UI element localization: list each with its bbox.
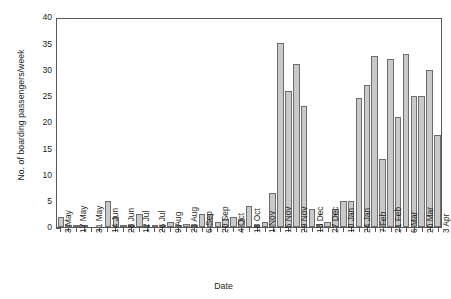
bar: [411, 96, 418, 227]
x-label-slot: 27 Dec: [324, 233, 332, 281]
x-label-slot: 12 Jul: [135, 233, 143, 281]
x-label-slot: [221, 233, 229, 281]
x-tick-mark: [170, 228, 171, 232]
bar-slot: [324, 19, 332, 227]
y-tick-label: 25: [28, 92, 52, 101]
x-label-slot: 31 May: [88, 233, 96, 281]
x-label-slot: 6 Sep: [198, 233, 206, 281]
x-label-slot: 29 Nov: [292, 233, 300, 281]
x-label-slot: [206, 233, 214, 281]
x-label-slot: 3 May: [56, 233, 64, 281]
x-label-slot: [363, 233, 371, 281]
plot-area: [56, 18, 442, 228]
x-tick-mark: [154, 228, 155, 232]
bar-slot: [386, 19, 394, 227]
bar-slot: [214, 19, 222, 227]
x-label-slot: [284, 233, 292, 281]
bar-slot: [418, 19, 426, 227]
x-tick-label: 29 Nov: [300, 206, 309, 233]
x-tick-mark: [91, 228, 92, 232]
y-tick-label: 0: [28, 223, 52, 232]
x-label-slot: [426, 233, 434, 281]
bar-slot: [135, 19, 143, 227]
bar: [371, 56, 378, 227]
x-label-slot: 23 Aug: [182, 233, 190, 281]
x-label-slot: 24 Jan: [355, 233, 363, 281]
x-tick-mark: [60, 228, 61, 232]
x-tick-mark: [249, 228, 250, 232]
x-tick-mark: [139, 228, 140, 232]
bar-slot: [96, 19, 104, 227]
bar-slot: [300, 19, 308, 227]
x-label-slot: [332, 233, 340, 281]
x-tick-label: 6 Mar: [410, 212, 419, 233]
x-tick-label: 18 Oct: [253, 208, 262, 233]
x-tick-label: 12 Jul: [142, 211, 151, 233]
y-tick-label: 40: [28, 13, 52, 22]
bar-slot: [371, 19, 379, 227]
bar-slot: [167, 19, 175, 227]
bar-series: [57, 19, 441, 227]
bar: [293, 64, 300, 227]
x-label-slot: [95, 233, 103, 281]
x-label-slot: [300, 233, 308, 281]
x-tick-mark: [406, 228, 407, 232]
bar-slot: [237, 19, 245, 227]
x-label-slot: [347, 233, 355, 281]
x-tick-label: 6 Sep: [205, 211, 214, 233]
x-tick-mark: [296, 228, 297, 232]
x-label-slot: 9 Aug: [166, 233, 174, 281]
x-tick-mark: [438, 228, 439, 232]
bar: [364, 85, 371, 227]
bar-slot: [284, 19, 292, 227]
x-tick-label: 24 Jan: [363, 208, 372, 233]
x-label-slot: 6 Mar: [403, 233, 411, 281]
bar: [434, 135, 441, 227]
x-tick-label: 27 Dec: [331, 206, 340, 233]
y-tick-label: 35: [28, 40, 52, 49]
x-label-slot: 13 Dec: [308, 233, 316, 281]
x-tick-label: 23 Aug: [190, 207, 199, 233]
bar-slot: [198, 19, 206, 227]
x-tick-label: 3 Apr: [442, 213, 451, 233]
x-tick-mark: [217, 228, 218, 232]
bar-slot: [183, 19, 191, 227]
x-label-slot: 4 Oct: [229, 233, 237, 281]
bar: [387, 59, 394, 227]
x-tick-mark: [123, 228, 124, 232]
x-label-slot: 17 May: [72, 233, 80, 281]
bar-slot: [230, 19, 238, 227]
x-label-slot: 10 Jan: [340, 233, 348, 281]
bar-slot: [379, 19, 387, 227]
x-tick-mark: [391, 228, 392, 232]
bar-slot: [394, 19, 402, 227]
x-tick-mark: [375, 228, 376, 232]
bar-slot: [222, 19, 230, 227]
x-tick-label: 4 Oct: [237, 213, 246, 233]
x-tick-mark: [359, 228, 360, 232]
x-label-slot: 3 Apr: [434, 233, 442, 281]
x-label-slot: 28 Jun: [119, 233, 127, 281]
x-tick-mark: [107, 228, 108, 232]
bar-slot: [292, 19, 300, 227]
x-tick-label: 13 Dec: [316, 206, 325, 233]
bar-slot: [206, 19, 214, 227]
x-label-slot: 26 Jul: [151, 233, 159, 281]
bar-slot: [363, 19, 371, 227]
bar-slot: [81, 19, 89, 227]
bar-slot: [332, 19, 340, 227]
x-label-slot: [127, 233, 135, 281]
bar: [426, 70, 433, 228]
x-label-slot: [174, 233, 182, 281]
x-label-slot: 1 Nov: [261, 233, 269, 281]
x-tick-mark: [186, 228, 187, 232]
x-label-slot: [158, 233, 166, 281]
x-tick-mark: [202, 228, 203, 232]
x-tick-label: 14 Jun: [111, 208, 120, 233]
x-tick-mark: [328, 228, 329, 232]
x-label-slot: [269, 233, 277, 281]
x-label-slot: 18 Oct: [245, 233, 253, 281]
x-label-slot: 7 Feb: [371, 233, 379, 281]
y-tick-label: 30: [28, 66, 52, 75]
x-tick-label: 10 Jan: [347, 208, 356, 233]
